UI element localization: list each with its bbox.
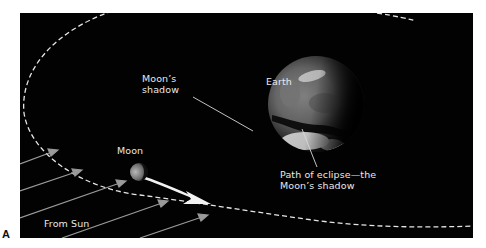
moons-shadow-leader-line: [193, 97, 253, 131]
eclipse-diagram-panel: Moon’s shadow Earth Moon From Sun Path o…: [20, 13, 473, 238]
sun-ray-arrow-icon: [20, 169, 82, 191]
from-sun-label: From Sun: [44, 218, 89, 229]
moon-label: Moon: [117, 145, 143, 156]
earth-globe-icon: [268, 56, 364, 163]
moon-orbit-dashed-ellipse: [24, 13, 473, 227]
moons-shadow-label-line2: shadow: [142, 84, 179, 95]
moon-icon: [130, 163, 148, 181]
path-of-eclipse-label: Path of eclipse—the Moon’s shadow: [280, 169, 376, 191]
sun-ray-arrow-icon: [20, 149, 58, 164]
moons-shadow-label-line1: Moon’s: [142, 73, 179, 84]
moons-shadow-label: Moon’s shadow: [142, 73, 179, 95]
path-of-eclipse-label-line2: Moon’s shadow: [280, 180, 376, 191]
sun-ray-arrow-icon: [140, 214, 208, 238]
path-of-eclipse-label-line1: Path of eclipse—the: [280, 169, 376, 180]
moon-motion-arrow-icon: [142, 177, 211, 204]
earth-label: Earth: [266, 76, 292, 87]
diagram-graphics: [20, 13, 473, 238]
figure-letter: A: [2, 228, 10, 240]
